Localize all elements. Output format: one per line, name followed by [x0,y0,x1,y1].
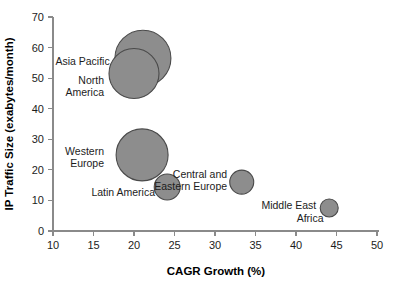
y-axis-title: IP Traffic Size (exabytes/month) [3,37,15,210]
bubble-chart: 010203040506070 101520253035404550 Asia … [0,0,397,283]
x-tick-label: 20 [128,239,140,251]
bubble-label-middle-east-africa-line2: Africa [297,212,324,224]
y-tick-label: 0 [38,225,44,237]
bubble-labels: Asia PacificNorthAmericaWesternEuropeLat… [55,55,323,223]
x-tick-label: 35 [249,239,261,251]
x-tick-label: 45 [330,239,342,251]
y-tick-label: 60 [32,42,44,54]
x-axis-ticks: 101520253035404550 [47,231,383,251]
y-tick-label: 10 [32,194,44,206]
x-axis-title: CAGR Growth (%) [167,265,266,277]
bubble-label-north-america: North [78,74,104,86]
x-tick-label: 25 [168,239,180,251]
bubble-label-western-europe: Western [65,145,104,157]
bubble-label-middle-east-africa: Middle East [261,199,316,211]
y-tick-label: 40 [32,103,44,115]
bubble-central-and-eastern-europe[interactable] [230,170,254,194]
bubble-label-asia-pacific: Asia Pacific [55,55,109,67]
chart-canvas: 010203040506070 101520253035404550 Asia … [0,0,397,283]
bubble-north-america[interactable] [109,49,159,99]
y-tick-label: 70 [32,11,44,23]
x-tick-label: 30 [209,239,221,251]
y-tick-label: 50 [32,72,44,84]
x-tick-label: 50 [371,239,383,251]
x-tick-label: 40 [290,239,302,251]
x-tick-label: 15 [87,239,99,251]
bubble-label-north-america-line2: America [66,86,105,98]
bubble-label-central-and-eastern-europe: Central and [173,168,227,180]
bubble-label-western-europe-line2: Europe [70,157,104,169]
bubble-western-europe[interactable] [116,129,168,181]
bubble-label-latin-america: Latin America [91,186,155,198]
bubble-label-central-and-eastern-europe-line2: Eastern Europe [154,180,227,192]
y-tick-label: 30 [32,133,44,145]
x-tick-label: 10 [47,239,59,251]
y-tick-label: 20 [32,164,44,176]
y-axis-ticks: 010203040506070 [32,11,53,237]
